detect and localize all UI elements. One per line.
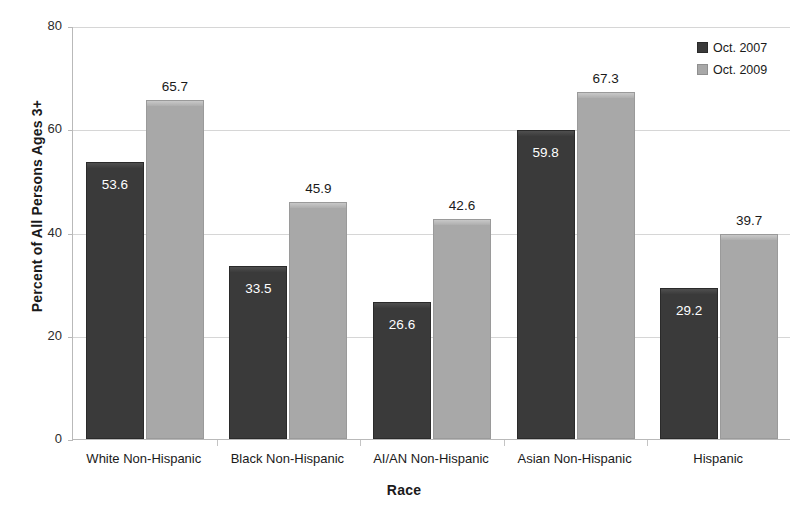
bar-0-3[interactable]: 59.8 [517, 130, 575, 439]
bar-value-label: 33.5 [230, 281, 286, 296]
legend-label-oct-2009: Oct. 2009 [713, 63, 767, 77]
bar-top-highlight [290, 203, 346, 208]
legend-item-oct-2009[interactable]: Oct. 2009 [697, 60, 767, 79]
bar-top-highlight [661, 289, 717, 294]
y-axis-tick [68, 234, 73, 235]
bar-value-label: 53.6 [87, 177, 143, 192]
bar-top-highlight [518, 131, 574, 136]
bar-1-2[interactable] [433, 219, 491, 439]
plot-area: 53.665.733.545.926.642.659.867.329.239.7 [72, 27, 790, 440]
bar-chart: Percent of All Persons Ages 3+ 53.665.73… [0, 0, 808, 510]
y-axis-tick-label: 60 [2, 121, 62, 136]
bar-value-label: 39.7 [720, 213, 778, 228]
bar-value-label: 42.6 [433, 198, 491, 213]
y-axis-tick-label: 20 [2, 328, 62, 343]
y-axis-tick [68, 440, 73, 441]
bar-value-label: 59.8 [518, 145, 574, 160]
gridline [73, 27, 790, 28]
bar-value-label: 45.9 [289, 181, 347, 196]
bar-top-highlight [230, 267, 286, 272]
bar-value-label: 26.6 [374, 317, 430, 332]
y-axis-tick [68, 130, 73, 131]
x-axis-category-label: Asian Non-Hispanic [503, 451, 647, 466]
x-axis-separator-tick [217, 440, 218, 446]
bar-top-highlight [434, 220, 490, 225]
x-axis-title: Race [0, 482, 808, 498]
bar-1-0[interactable] [146, 100, 204, 439]
y-axis-tick [68, 337, 73, 338]
y-axis-tick [68, 27, 73, 28]
bar-value-label: 65.7 [146, 79, 204, 94]
y-axis-tick-label: 80 [2, 18, 62, 33]
x-axis-category-label: White Non-Hispanic [72, 451, 216, 466]
x-axis-separator-tick [647, 440, 648, 446]
x-axis-category-label: Black Non-Hispanic [216, 451, 360, 466]
bar-top-highlight [147, 101, 203, 106]
bar-top-highlight [87, 163, 143, 168]
bar-value-label: 67.3 [577, 71, 635, 86]
x-axis-category-label: AI/AN Non-Hispanic [359, 451, 503, 466]
x-axis-category-label: Hispanic [646, 451, 790, 466]
bar-0-0[interactable]: 53.6 [86, 162, 144, 439]
bar-top-highlight [721, 235, 777, 240]
x-axis-separator-tick [360, 440, 361, 446]
bar-1-1[interactable] [289, 202, 347, 439]
bar-top-highlight [374, 303, 430, 308]
bar-1-4[interactable] [720, 234, 778, 439]
y-axis-tick-label: 40 [2, 225, 62, 240]
legend-label-oct-2007: Oct. 2007 [713, 41, 767, 55]
legend-swatch-oct-2007 [697, 42, 708, 53]
y-axis-tick-label: 0 [2, 431, 62, 446]
legend: Oct. 2007 Oct. 2009 [697, 38, 767, 82]
bar-value-label: 29.2 [661, 303, 717, 318]
bar-1-3[interactable] [577, 92, 635, 439]
legend-item-oct-2007[interactable]: Oct. 2007 [697, 38, 767, 57]
bar-top-highlight [578, 93, 634, 98]
bar-0-4[interactable]: 29.2 [660, 288, 718, 439]
x-axis-separator-tick [504, 440, 505, 446]
bar-0-1[interactable]: 33.5 [229, 266, 287, 439]
y-axis-title: Percent of All Persons Ages 3+ [29, 66, 45, 346]
legend-swatch-oct-2009 [697, 64, 708, 75]
bar-0-2[interactable]: 26.6 [373, 302, 431, 439]
